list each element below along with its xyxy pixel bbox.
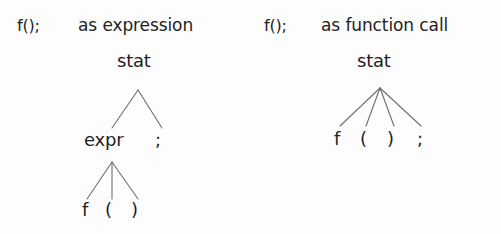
left-tree-node-expr: expr — [84, 131, 123, 149]
edge-right-stat-semi — [380, 88, 421, 126]
right-header-label: as function call — [321, 17, 448, 34]
right-tree-node-stat: stat — [357, 52, 391, 70]
edge-right-stat-f — [340, 88, 380, 126]
edge-left-stat-semi — [138, 90, 162, 128]
right-header-code: f(); — [264, 18, 287, 34]
left-tree-leaf-lparen: ( — [105, 201, 112, 219]
right-tree-leaf-lparen: ( — [360, 130, 367, 148]
right-tree-leaf-rparen: ) — [387, 130, 394, 148]
edge-right-stat-rparen — [380, 88, 394, 126]
left-tree-leaf-rparen: ) — [131, 201, 138, 219]
tree-edges-layer — [0, 0, 501, 234]
edge-left-expr-rparen — [112, 162, 138, 199]
left-tree-leaf-f: f — [82, 201, 88, 219]
right-tree-leaf-f: f — [334, 130, 340, 148]
edge-left-expr-f — [87, 162, 112, 199]
parse-tree-figure: f(); as expression stat expr ; f ( ) f()… — [0, 0, 501, 234]
left-header-label: as expression — [78, 17, 193, 34]
left-tree-node-stat: stat — [117, 52, 151, 70]
edge-right-stat-lparen — [366, 88, 380, 126]
left-header-code: f(); — [17, 18, 40, 34]
right-tree-leaf-semicolon: ; — [417, 130, 423, 148]
left-tree-node-semicolon: ; — [155, 131, 161, 149]
edge-left-stat-expr — [112, 90, 138, 128]
